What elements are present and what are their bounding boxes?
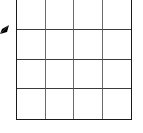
diagram-canvas: [0, 0, 143, 133]
grid-cell: [74, 0, 103, 30]
grid-cell: [17, 89, 46, 119]
grid-cell: [103, 30, 132, 60]
grid-cell: [46, 0, 75, 30]
grid-cell: [103, 0, 132, 30]
grid-cell: [17, 0, 46, 30]
grid-cell: [74, 30, 103, 60]
grid-cell: [103, 60, 132, 90]
grid-cell: [74, 89, 103, 119]
grid-cell: [17, 60, 46, 90]
grid-cell: [46, 89, 75, 119]
grid-cell: [17, 30, 46, 60]
grid-cell: [74, 60, 103, 90]
grid-4x4: [16, 0, 132, 120]
grid-cell: [46, 30, 75, 60]
grid-cell: [103, 89, 132, 119]
grid-cell: [46, 60, 75, 90]
arrow-pointer-icon: [0, 24, 10, 36]
